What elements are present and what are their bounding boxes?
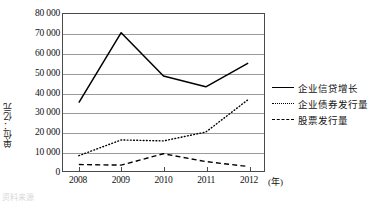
legend-swatch-dashed-icon	[272, 115, 294, 125]
x-tick-label: 2009	[112, 175, 130, 185]
y-tick-label: 60 000	[35, 48, 60, 58]
y-tick-label: 10 000	[35, 147, 60, 157]
series-line-dashed	[79, 154, 248, 167]
y-tick-label: 20 000	[35, 127, 60, 137]
legend-item-2: 企业债券发行量	[272, 96, 376, 111]
series-line-solid	[79, 33, 248, 103]
legend-swatch-dotted-icon	[272, 99, 294, 109]
x-tick-label: 2010	[154, 175, 172, 185]
y-tick-label: 40 000	[35, 88, 60, 98]
series-lines	[63, 14, 264, 171]
legend-swatch-solid-icon	[272, 83, 294, 93]
x-axis-tick-labels: (年) 20082009201020112012	[0, 174, 377, 190]
legend-label: 企业债券发行量	[298, 97, 368, 111]
legend-item-1: 企业信贷增长	[272, 80, 376, 95]
legend-label: 股票发行量	[298, 113, 348, 127]
y-axis-tick-labels: 010 00020 00030 00040 00050 00060 00070 …	[14, 0, 62, 202]
series-line-dotted	[79, 100, 248, 156]
y-tick-label: 80 000	[35, 8, 60, 18]
chart-figure: 单位：亿元 010 00020 00030 00040 00050 00060 …	[0, 0, 377, 202]
x-tick-label: 2012	[240, 175, 258, 185]
y-tick-label: 50 000	[35, 68, 60, 78]
y-tick-label: 30 000	[35, 107, 60, 117]
x-axis-unit-label: (年)	[268, 175, 283, 188]
y-axis-unit-label: 单位：亿元	[1, 52, 15, 148]
legend-item-3: 股票发行量	[272, 112, 376, 127]
x-tick-label: 2011	[197, 175, 215, 185]
y-tick-label: 70 000	[35, 28, 60, 38]
x-tick-label: 2008	[69, 175, 87, 185]
legend-label: 企业信贷增长	[298, 81, 358, 95]
figure-caption: 资料来源	[2, 191, 34, 202]
plot-area	[62, 13, 265, 172]
chart-legend: 企业信贷增长企业债券发行量股票发行量	[272, 80, 376, 128]
